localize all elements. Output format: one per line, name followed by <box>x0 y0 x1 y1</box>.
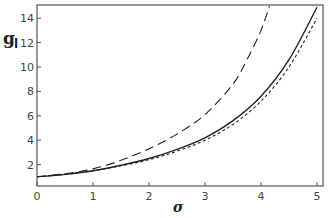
x-tick-label: 3 <box>202 190 209 203</box>
y-tick-label: 4 <box>27 134 34 147</box>
axes-box <box>37 5 323 186</box>
y-tick-label: 2 <box>27 159 34 172</box>
y-axis-label-subscript: l <box>14 37 18 51</box>
x-axis-label: σ <box>173 199 184 215</box>
series-line-short-dashed <box>37 18 317 177</box>
y-axis-ticks: 2468101214 <box>20 12 41 171</box>
plot-series <box>37 6 317 177</box>
x-tick-label: 5 <box>314 190 321 203</box>
plot-frame <box>37 5 323 186</box>
y-tick-label: 8 <box>27 85 34 98</box>
series-line-solid <box>37 7 317 177</box>
y-axis-label: g l <box>3 28 18 51</box>
x-tick-label: 4 <box>258 190 265 203</box>
y-tick-label: 10 <box>20 61 34 74</box>
x-tick-label: 0 <box>34 190 41 203</box>
series-line-long-dashed <box>37 6 269 177</box>
y-tick-label: 6 <box>27 110 34 123</box>
x-tick-label: 1 <box>90 190 97 203</box>
y-tick-label: 14 <box>20 12 34 25</box>
chart-canvas: 012345 2468101214 g l σ <box>0 0 331 218</box>
y-tick-label: 12 <box>20 37 34 50</box>
x-tick-label: 2 <box>146 190 153 203</box>
